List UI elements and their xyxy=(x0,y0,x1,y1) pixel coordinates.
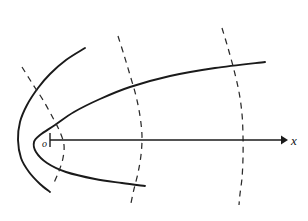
origin-label: o xyxy=(42,138,47,149)
figure-container: o x xyxy=(0,0,308,221)
dashed-arc-right xyxy=(222,28,243,205)
dashed-arc-middle xyxy=(118,36,142,203)
axis-label: x xyxy=(290,133,297,148)
x-axis-arrow-icon xyxy=(281,136,288,145)
outer-parabola-curve xyxy=(18,48,85,192)
parabolic-curves-figure: o x xyxy=(0,0,308,221)
dashed-arc-left xyxy=(22,67,64,185)
inner-parabola-curve xyxy=(34,62,265,186)
